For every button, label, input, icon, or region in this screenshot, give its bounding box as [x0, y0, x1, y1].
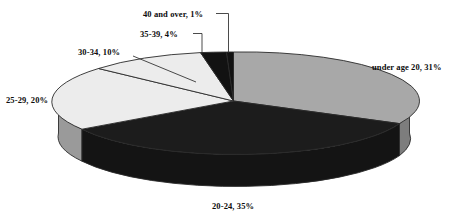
pie-label-30-34: 30-34, 10% — [78, 47, 120, 57]
pie-label-under-age-20: under age 20, 31% — [372, 62, 442, 72]
pie-top-surface — [52, 52, 420, 155]
pie-chart-graphic — [0, 0, 462, 216]
pie-chart: under age 20, 31% 20-24, 35% 25-29, 20% … — [0, 0, 462, 216]
pie-label-20-24: 20-24, 35% — [212, 201, 254, 211]
leader-line-35-39 — [193, 34, 202, 55]
pie-label-35-39: 35-39, 4% — [140, 29, 178, 39]
pie-label-25-29: 25-29, 20% — [6, 95, 48, 105]
pie-label-40-and-over: 40 and over, 1% — [143, 9, 203, 19]
leader-line-40-and-over — [216, 14, 229, 54]
